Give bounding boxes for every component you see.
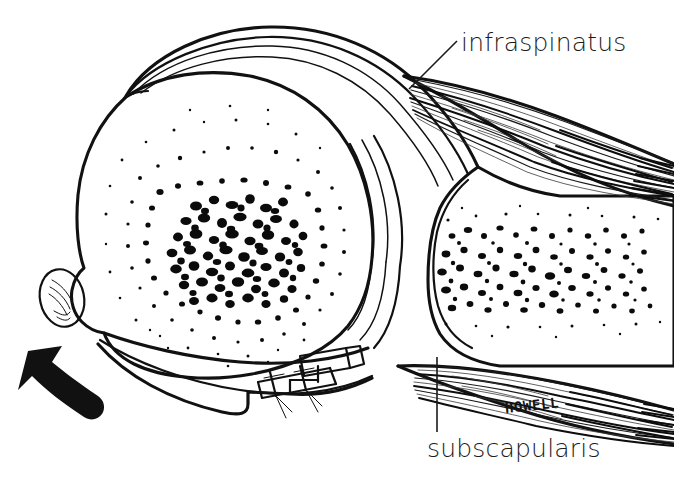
label-subscapularis: subscapularis — [427, 434, 601, 464]
motion-arrow — [18, 346, 104, 419]
infraspinatus-muscle — [404, 76, 674, 206]
anatomical-illustration: infraspinatus subscapularis HOWELL — [0, 0, 674, 487]
label-infraspinatus: infraspinatus — [461, 28, 626, 58]
glenoid-stipple — [437, 205, 661, 338]
stitch-mark — [294, 366, 314, 390]
humeral-head-stipple — [105, 105, 347, 368]
figure-svg — [0, 0, 674, 487]
